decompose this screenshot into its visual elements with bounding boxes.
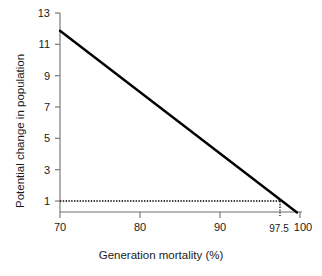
x-tick-label-70: 70	[54, 222, 66, 233]
y-tick-label-7: 7	[28, 102, 50, 113]
y-axis-ticks	[55, 13, 60, 201]
y-axis-label: Potential change in population	[14, 54, 26, 208]
y-tick-label-13: 13	[28, 8, 50, 19]
x-axis-ticks	[60, 212, 300, 218]
x-tick-label-80: 80	[134, 222, 146, 233]
population-change-line	[60, 31, 297, 213]
x-tick-label-90: 90	[214, 222, 226, 233]
y-tick-label-9: 9	[28, 70, 50, 81]
y-tick-label-5: 5	[28, 133, 50, 144]
y-tick-label-3: 3	[28, 164, 50, 175]
chart-figure: 13 11 9 7 5 3 1 70 80 90 97.5 100 Potent…	[0, 0, 322, 276]
x-tick-label-100: 100	[294, 222, 312, 233]
x-axis-label: Generation mortality (%)	[0, 249, 322, 261]
y-tick-label-11: 11	[28, 39, 50, 50]
x-tick-label-97-5: 97.5	[269, 223, 288, 234]
y-tick-label-1: 1	[28, 196, 50, 207]
